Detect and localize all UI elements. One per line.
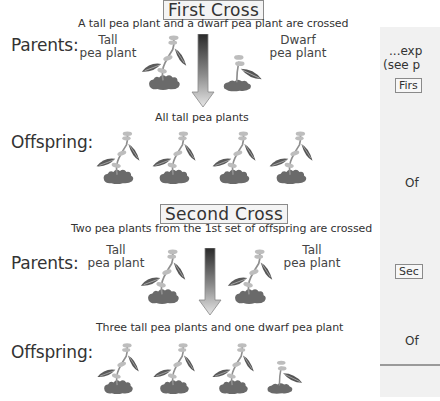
first-cross-parents-label: Parents: [11,35,78,55]
first-cross-parent-right-label: Dwarf pea plant [263,34,333,60]
tall-pea-plant-icon [135,246,193,306]
side-panel-divider [380,364,440,366]
second-cross-title: Second Cross [160,204,288,224]
offspring-tall-plant-icon [92,340,146,396]
side-panel: ...exp (see p Firs Of Sec Of [380,27,440,397]
label-line: pea plant [282,257,342,270]
offspring-dwarf-plant-icon [262,358,310,396]
second-cross-parents-label: Parents: [11,253,78,273]
side-panel-text-line1: ...exp [389,44,422,58]
first-cross-description: A tall pea plant and a dwarf pea plant a… [78,17,348,30]
second-cross-parent-right-label: Tall pea plant [282,244,342,270]
label-line: pea plant [263,47,333,60]
second-cross-offspring-caption: Three tall pea plants and one dwarf pea … [96,321,343,334]
first-cross-offspring-caption: All tall pea plants [155,111,249,124]
label-line: pea plant [78,47,138,60]
side-panel-offspring-label-2: Of [405,334,419,348]
offspring-tall-plant-icon [147,128,203,186]
second-cross-description: Two pea plants from the 1st set of offsp… [71,222,372,235]
down-arrow-icon [198,248,222,316]
tall-pea-plant-icon [222,246,280,306]
tall-pea-plant-icon [136,32,194,92]
offspring-tall-plant-icon [207,128,263,186]
first-cross-parent-left-label: Tall pea plant [78,34,138,60]
dwarf-pea-plant-icon [218,52,270,94]
side-panel-text-line2: (see p [383,58,420,72]
first-cross-offspring-label: Offspring: [11,132,93,152]
down-arrow-icon [191,34,215,108]
offspring-tall-plant-icon [148,340,202,396]
offspring-tall-plant-icon [207,340,261,396]
offspring-tall-plant-icon [91,128,147,186]
offspring-tall-plant-icon [264,128,320,186]
side-panel-first-cross-box: Firs [395,78,422,93]
side-panel-second-cross-box: Sec [395,264,423,279]
second-cross-offspring-label: Offspring: [11,342,93,362]
side-panel-offspring-label-1: Of [405,176,419,190]
